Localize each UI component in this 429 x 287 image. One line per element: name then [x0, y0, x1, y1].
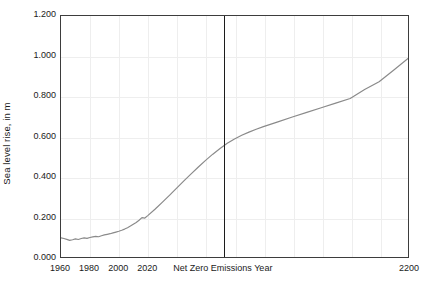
x-axis-tick-label: 2020	[137, 263, 157, 273]
x-axis-tick-label: 1960	[50, 263, 70, 273]
series-line	[61, 59, 408, 241]
y-axis-tick-label: 1.000	[12, 50, 56, 60]
x-axis-tick-label: 2200	[399, 263, 419, 273]
series-sea-level-rise	[61, 16, 408, 257]
y-axis-tick-label: 0.400	[12, 171, 56, 181]
x-axis-tick-label: 1980	[79, 263, 99, 273]
y-axis-tick-label: 0.600	[12, 131, 56, 141]
y-axis-tick-label: 0.000	[12, 252, 56, 262]
plot-area	[60, 15, 409, 258]
y-axis-tick-label: 0.200	[12, 212, 56, 222]
x-axis-tick-label: 2000	[108, 263, 128, 273]
net-zero-emissions-year-label: Net Zero Emissions Year	[173, 263, 272, 273]
y-axis-tick-label: 1.200	[12, 9, 56, 19]
sea-level-rise-chart: Sea level rise, in m 0.0000.2000.4000.60…	[0, 0, 429, 287]
y-axis-title-text: Sea level rise, in m	[1, 102, 12, 184]
y-axis-title: Sea level rise, in m	[0, 0, 16, 287]
y-axis-tick-label: 0.800	[12, 90, 56, 100]
net-zero-emissions-vline	[224, 16, 226, 257]
